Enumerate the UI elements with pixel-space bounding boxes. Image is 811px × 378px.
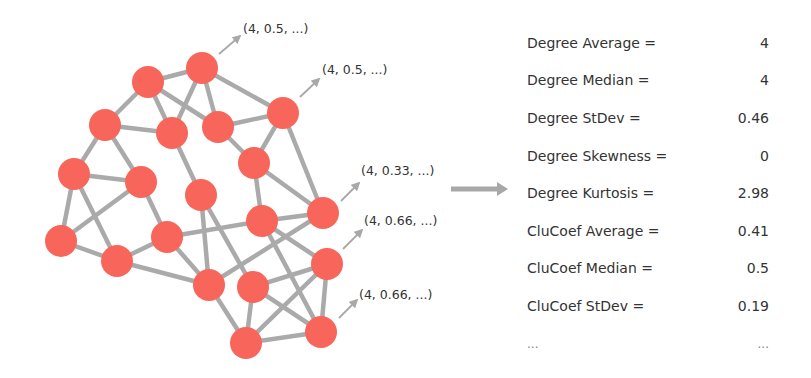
graph-node xyxy=(58,158,90,190)
stat-degree-stdev: Degree StDev = 0.46 xyxy=(527,99,769,137)
stat-label: ... xyxy=(527,337,538,351)
graph-node xyxy=(311,248,343,280)
node-feature-label: (4, 0.66, ...) xyxy=(359,287,432,302)
stat-degree-median: Degree Median = 4 xyxy=(527,62,769,100)
graph-node xyxy=(125,166,157,198)
stat-degree-skewness: Degree Skewness = 0 xyxy=(527,137,769,175)
graph-node xyxy=(45,225,77,257)
stat-value: 4 xyxy=(760,35,769,51)
graph-node xyxy=(305,316,337,348)
graph-node xyxy=(151,221,183,253)
graph-node xyxy=(267,97,299,129)
stat-label: Degree Skewness = xyxy=(527,148,667,164)
annotation-arrow-icon xyxy=(343,230,362,249)
annotation-arrow-icon xyxy=(339,300,357,318)
node-feature-label: (4, 0.5, ...) xyxy=(243,21,308,36)
graph-node xyxy=(101,245,133,277)
stat-label: Degree Kurtosis = xyxy=(527,185,654,201)
transform-arrow-icon xyxy=(451,182,508,196)
node-feature-label: (4, 0.5, ...) xyxy=(322,62,387,77)
stat-value: 4 xyxy=(760,72,769,88)
graph-node xyxy=(132,66,164,98)
stat-clucoef-median: CluCoef Median = 0.5 xyxy=(527,250,769,288)
stat-more-ellipsis: ... ... xyxy=(527,325,769,363)
stat-clucoef-stdev: CluCoef StDev = 0.19 xyxy=(527,287,769,325)
stat-label: Degree Median = xyxy=(527,72,650,88)
stat-label: CluCoef Median = xyxy=(527,260,653,276)
graph-node xyxy=(307,197,339,229)
graph-node xyxy=(202,111,234,143)
stat-value: 0.41 xyxy=(738,223,769,239)
graph-node xyxy=(238,147,270,179)
stat-value: 0.5 xyxy=(747,260,769,276)
graph-statistics-list: Degree Average = 4 Degree Median = 4 Deg… xyxy=(527,24,769,362)
stat-value: 2.98 xyxy=(738,185,769,201)
stat-label: CluCoef Average = xyxy=(527,223,660,239)
stat-value: 0 xyxy=(760,148,769,164)
annotation-arrow-icon xyxy=(219,36,240,54)
stat-clucoef-average: CluCoef Average = 0.41 xyxy=(527,212,769,250)
stat-value: ... xyxy=(758,337,769,351)
graph-node xyxy=(89,109,121,141)
stat-label: CluCoef StDev = xyxy=(527,298,644,314)
stat-label: Degree StDev = xyxy=(527,110,641,126)
stat-value: 0.46 xyxy=(738,110,769,126)
graph-node xyxy=(237,271,269,303)
stat-degree-kurtosis: Degree Kurtosis = 2.98 xyxy=(527,174,769,212)
stat-degree-average: Degree Average = 4 xyxy=(527,24,769,62)
graph-node xyxy=(246,205,278,237)
graph-node xyxy=(193,269,225,301)
graph-node xyxy=(186,52,218,84)
graph-node xyxy=(156,117,188,149)
stat-value: 0.19 xyxy=(738,298,769,314)
graph-node xyxy=(185,179,217,211)
annotation-arrow-icon xyxy=(341,183,359,201)
node-feature-label: (4, 0.66, ...) xyxy=(364,213,437,228)
stat-label: Degree Average = xyxy=(527,35,656,51)
node-feature-label: (4, 0.33, ...) xyxy=(361,163,434,178)
graph-node xyxy=(230,327,262,359)
annotation-arrow-icon xyxy=(300,79,319,97)
